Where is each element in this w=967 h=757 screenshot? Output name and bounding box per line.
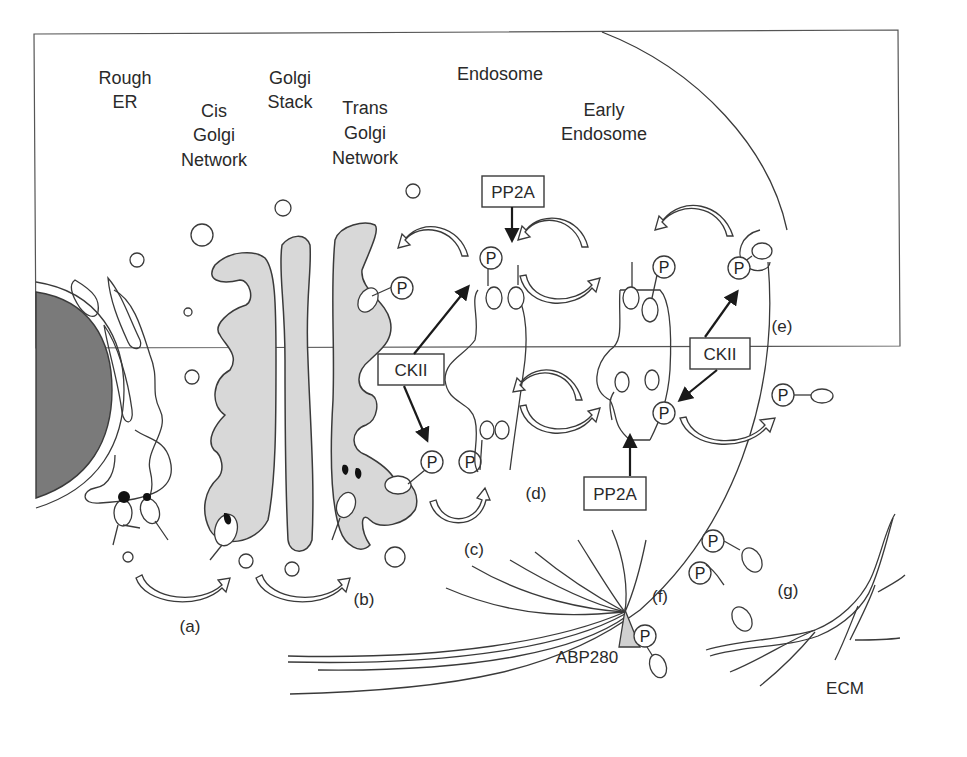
svg-text:P: P bbox=[708, 533, 719, 550]
svg-text:Rough: Rough bbox=[98, 68, 151, 88]
er-vesicle bbox=[137, 496, 163, 527]
phospho-marker: P bbox=[689, 562, 724, 585]
svg-text:Golgi: Golgi bbox=[269, 68, 311, 88]
enzyme-box-ckii-right: CKII bbox=[690, 338, 750, 369]
step-label-e: (e) bbox=[772, 317, 793, 336]
svg-text:P: P bbox=[640, 628, 651, 645]
phospho-marker: P bbox=[634, 625, 670, 680]
label-golgi-stack: Golgi Stack bbox=[267, 68, 313, 112]
er-vesicle bbox=[114, 500, 132, 526]
label-early-endosome: Early Endosome bbox=[561, 100, 647, 144]
phospho-marker: P bbox=[652, 256, 675, 298]
svg-text:Golgi: Golgi bbox=[344, 123, 386, 143]
svg-text:Early: Early bbox=[583, 100, 624, 120]
svg-text:Stack: Stack bbox=[267, 92, 313, 112]
enzyme-box-pp2a-top: PP2A bbox=[482, 176, 544, 207]
free-ligand bbox=[728, 603, 757, 635]
svg-text:P: P bbox=[778, 387, 789, 404]
ckii-arrow-down bbox=[404, 386, 427, 440]
svg-text:CKII: CKII bbox=[394, 361, 427, 380]
label-endosome: Endosome bbox=[457, 64, 543, 84]
svg-text:P: P bbox=[695, 565, 706, 582]
ckii-arrow-down-left bbox=[680, 370, 717, 400]
svg-text:Trans: Trans bbox=[342, 98, 387, 118]
label-cis-golgi: Cis Golgi Network bbox=[181, 101, 248, 170]
label-trans-golgi: Trans Golgi Network bbox=[332, 98, 399, 168]
step-label-g: (g) bbox=[778, 581, 799, 600]
svg-text:Golgi: Golgi bbox=[193, 125, 235, 145]
step-label-f: (f) bbox=[652, 587, 668, 606]
trafficking-diagram: P P P P P P P bbox=[0, 0, 967, 757]
svg-text:PP2A: PP2A bbox=[491, 183, 535, 202]
phospho-marker: P bbox=[480, 247, 502, 269]
phospho-marker: P bbox=[728, 256, 752, 279]
phospho-marker: P bbox=[408, 451, 443, 484]
step-label-c: (c) bbox=[464, 540, 484, 559]
label-abp280: ABP280 bbox=[556, 648, 618, 667]
cargo-dot bbox=[118, 491, 130, 503]
svg-text:P: P bbox=[465, 454, 476, 471]
ecm-fibers bbox=[706, 514, 905, 686]
step-label-a: (a) bbox=[180, 617, 201, 636]
enzyme-box-pp2a-bottom: PP2A bbox=[584, 477, 646, 510]
ckii-arrow-up-right bbox=[705, 292, 737, 337]
svg-text:ER: ER bbox=[112, 92, 137, 112]
svg-text:CKII: CKII bbox=[703, 345, 736, 364]
endosome bbox=[445, 290, 526, 472]
cis-golgi-cisterna bbox=[205, 253, 276, 542]
phospho-marker: P bbox=[772, 384, 833, 406]
svg-text:P: P bbox=[486, 250, 497, 267]
label-ecm: ECM bbox=[826, 679, 864, 698]
svg-text:P: P bbox=[397, 280, 408, 297]
svg-text:P: P bbox=[659, 259, 670, 276]
cargo-dot bbox=[143, 493, 151, 501]
golgi-stack-cisterna bbox=[281, 236, 313, 551]
svg-text:P: P bbox=[427, 454, 438, 471]
step-label-b: (b) bbox=[354, 590, 375, 609]
svg-text:Cis: Cis bbox=[201, 101, 227, 121]
ckii-arrow-up bbox=[414, 287, 468, 354]
label-rough-er: Rough ER bbox=[98, 68, 151, 112]
phospho-marker: P bbox=[459, 451, 481, 473]
svg-text:Network: Network bbox=[332, 148, 399, 168]
phospho-marker: P bbox=[653, 402, 675, 424]
svg-text:Network: Network bbox=[181, 150, 248, 170]
svg-text:P: P bbox=[734, 260, 745, 277]
nucleus bbox=[36, 292, 112, 498]
svg-text:PP2A: PP2A bbox=[593, 485, 637, 504]
tgn-vesicle bbox=[385, 476, 411, 494]
svg-text:Endosome: Endosome bbox=[561, 124, 647, 144]
enzyme-box-ckii-left: CKII bbox=[378, 354, 444, 385]
step-label-d: (d) bbox=[526, 484, 547, 503]
svg-text:P: P bbox=[659, 405, 670, 422]
